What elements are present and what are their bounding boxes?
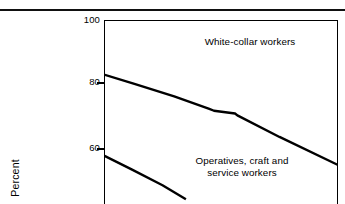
y-tick-mark-60 [97, 148, 104, 150]
series-line [104, 75, 338, 165]
y-tick-label-60: 60 [66, 143, 100, 153]
series-label-operatives: Operatives, craft and service workers [160, 155, 324, 179]
series-label-white-collar: White-collar workers [168, 36, 332, 48]
y-tick-label-80: 80 [66, 77, 100, 87]
y-tick-label-100: 100 [66, 15, 100, 25]
top-horizontal-rule [0, 9, 345, 11]
chart-screenshot: 100 80 60 Percent White-collar workers O… [0, 0, 345, 204]
y-tick-mark-80 [97, 82, 104, 84]
y-axis-title: Percent [9, 146, 21, 204]
